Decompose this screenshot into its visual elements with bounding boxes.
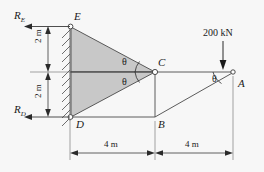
- dim-arrowhead-top-down: [45, 64, 51, 72]
- angle-label-c-upper: θ: [122, 57, 127, 67]
- member-ec-upper: [71, 27, 155, 72]
- dimension-label-vertical-bottom: 2 m: [34, 84, 43, 98]
- joint-a: [231, 70, 235, 74]
- joint-label-b: B: [158, 119, 165, 130]
- joint-label-d: D: [76, 119, 84, 130]
- dim-arrowhead-left-end: [147, 150, 155, 156]
- dimension-label-horizontal-left: 4 m: [104, 140, 118, 149]
- dim-arrowhead-top-up: [45, 26, 51, 34]
- member-ba-diagonal: [155, 72, 234, 117]
- angle-label-a: θ: [212, 74, 217, 84]
- reaction-label-re: RE: [14, 10, 25, 24]
- dim-arrowhead-right-end: [225, 150, 233, 156]
- angle-label-c-lower: θ: [122, 77, 127, 87]
- joint-label-a: A: [238, 78, 245, 89]
- member-dc-lower: [71, 72, 155, 117]
- dimension-label-vertical-top: 2 m: [34, 29, 43, 43]
- dim-arrowhead-bot-up: [45, 72, 51, 80]
- dim-arrowhead-bot-down: [45, 109, 51, 117]
- dimension-label-horizontal-right: 4 m: [185, 140, 199, 149]
- joint-label-e: E: [74, 11, 81, 22]
- joint-label-c: C: [158, 57, 165, 68]
- load-label: 200 kN: [203, 28, 233, 38]
- dim-arrowhead-left-start: [70, 150, 78, 156]
- joint-c: [152, 69, 157, 74]
- load-arrowhead: [220, 60, 227, 70]
- wall-support-hatching: [62, 26, 70, 126]
- reaction-label-rd: RD: [14, 104, 26, 118]
- dim-arrowhead-right-start: [155, 150, 163, 156]
